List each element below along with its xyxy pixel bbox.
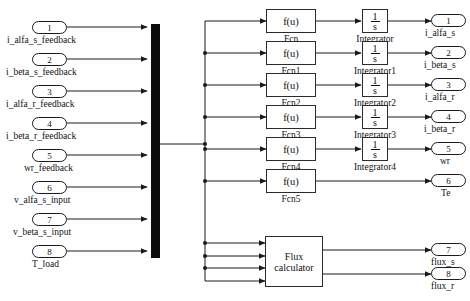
output-port-2-label: i_beta_s bbox=[424, 60, 456, 71]
fcn-block-0-text: f(u) bbox=[283, 16, 299, 27]
bus-mux-bar[interactable] bbox=[151, 24, 160, 258]
input-port-5[interactable]: 5 bbox=[32, 149, 67, 162]
fcn-block-2[interactable]: f(u) bbox=[266, 73, 316, 97]
input-port-2[interactable]: 2 bbox=[32, 53, 67, 66]
integrator-block-2-denominator: s bbox=[371, 86, 380, 95]
integrator-block-0[interactable]: 1 s bbox=[362, 9, 388, 33]
integrator-block-4-transfer: 1 s bbox=[371, 140, 380, 159]
input-port-3-label: i_alfa_r_feedback bbox=[6, 99, 75, 110]
fcn-block-0[interactable]: f(u) bbox=[266, 9, 316, 33]
integrator-block-2[interactable]: 1 s bbox=[362, 73, 388, 97]
fcn-block-4[interactable]: f(u) bbox=[266, 137, 316, 161]
output-port-7[interactable]: 7 bbox=[431, 243, 466, 256]
input-port-4-label: i_beta_r_feedback bbox=[6, 131, 76, 142]
integrator-block-1-transfer: 1 s bbox=[371, 44, 380, 63]
fcn-block-3-text: f(u) bbox=[283, 112, 299, 123]
input-port-7[interactable]: 7 bbox=[32, 213, 67, 226]
input-port-7-label: v_beta_s_input bbox=[13, 227, 71, 238]
output-port-5-label: wr bbox=[440, 156, 450, 167]
input-port-2-label: i_beta_s_feedback bbox=[6, 67, 77, 78]
output-port-6-number: 6 bbox=[446, 176, 451, 186]
fcn-block-4-text: f(u) bbox=[283, 144, 299, 155]
flux-calculator-block[interactable]: Flux calculator bbox=[265, 236, 323, 287]
output-port-4[interactable]: 4 bbox=[431, 110, 466, 123]
output-port-4-label: i_beta_r bbox=[424, 124, 455, 135]
block-diagram-canvas: 1 i_alfa_s_feedback 2 i_beta_s_feedback … bbox=[0, 0, 470, 301]
output-port-8-label: flux_r bbox=[431, 281, 454, 292]
input-port-6-number: 6 bbox=[47, 183, 52, 193]
input-port-1-number: 1 bbox=[47, 23, 52, 33]
input-port-6[interactable]: 6 bbox=[32, 181, 67, 194]
output-port-8[interactable]: 8 bbox=[431, 267, 466, 280]
output-port-3-number: 3 bbox=[446, 80, 451, 90]
integrator-block-0-transfer: 1 s bbox=[371, 12, 380, 31]
input-port-2-number: 2 bbox=[47, 55, 52, 65]
input-port-5-label: wr_feedback bbox=[24, 163, 73, 174]
input-port-5-number: 5 bbox=[47, 151, 52, 161]
output-port-5[interactable]: 5 bbox=[431, 142, 466, 155]
integrator-block-4-numerator: 1 bbox=[371, 140, 380, 150]
input-port-4[interactable]: 4 bbox=[32, 117, 67, 130]
input-port-6-label: v_alfa_s_input bbox=[14, 195, 70, 206]
integrator-block-1-denominator: s bbox=[371, 54, 380, 63]
input-port-3[interactable]: 3 bbox=[32, 85, 67, 98]
integrator-block-3[interactable]: 1 s bbox=[362, 105, 388, 129]
integrator-block-3-transfer: 1 s bbox=[371, 108, 380, 127]
fcn-block-1-text: f(u) bbox=[283, 48, 299, 59]
integrator-block-0-numerator: 1 bbox=[371, 12, 380, 22]
fcn-block-1[interactable]: f(u) bbox=[266, 41, 316, 65]
input-port-7-number: 7 bbox=[47, 215, 52, 225]
input-port-8-label: T_load bbox=[32, 259, 59, 270]
input-port-3-number: 3 bbox=[47, 87, 52, 97]
integrator-block-1[interactable]: 1 s bbox=[362, 41, 388, 65]
output-port-1-number: 1 bbox=[446, 16, 451, 26]
output-port-1-label: i_alfa_s bbox=[425, 28, 455, 39]
fcn-block-5[interactable]: f(u) bbox=[266, 169, 316, 193]
input-port-4-number: 4 bbox=[47, 119, 52, 129]
integrator-block-1-numerator: 1 bbox=[371, 44, 380, 54]
integrator-block-4-label: Integrator4 bbox=[345, 162, 405, 172]
output-port-3-label: i_alfa_r bbox=[425, 92, 455, 103]
fcn-block-5-label: Fcn5 bbox=[266, 194, 316, 204]
integrator-block-0-denominator: s bbox=[371, 22, 380, 31]
integrator-block-3-denominator: s bbox=[371, 118, 380, 127]
output-port-3[interactable]: 3 bbox=[431, 78, 466, 91]
output-port-8-number: 8 bbox=[446, 269, 451, 279]
input-port-8-number: 8 bbox=[47, 247, 52, 257]
integrator-block-2-numerator: 1 bbox=[371, 76, 380, 86]
flux-calculator-label: Flux calculator bbox=[266, 251, 322, 273]
fcn-block-2-text: f(u) bbox=[283, 80, 299, 91]
integrator-block-4-denominator: s bbox=[371, 150, 380, 159]
integrator-block-4[interactable]: 1 s bbox=[362, 137, 388, 161]
fcn-block-5-text: f(u) bbox=[283, 176, 299, 187]
input-port-1[interactable]: 1 bbox=[32, 21, 67, 34]
integrator-block-3-numerator: 1 bbox=[371, 108, 380, 118]
output-port-4-number: 4 bbox=[446, 112, 451, 122]
fcn-block-3[interactable]: f(u) bbox=[266, 105, 316, 129]
integrator-block-2-transfer: 1 s bbox=[371, 76, 380, 95]
input-port-1-label: i_alfa_s_feedback bbox=[7, 35, 76, 46]
output-port-2-number: 2 bbox=[446, 48, 451, 58]
output-port-5-number: 5 bbox=[446, 144, 451, 154]
output-port-2[interactable]: 2 bbox=[431, 46, 466, 59]
output-port-6-label: Te bbox=[441, 188, 450, 199]
output-port-6[interactable]: 6 bbox=[431, 174, 466, 187]
output-port-7-number: 7 bbox=[446, 245, 451, 255]
input-port-8[interactable]: 8 bbox=[32, 245, 67, 258]
output-port-1[interactable]: 1 bbox=[431, 14, 466, 27]
